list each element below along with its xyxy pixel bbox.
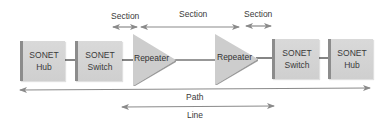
sonet-hub-right: SONET Hub — [328, 39, 373, 79]
repeater-right-label: Repeater — [217, 52, 252, 62]
switch-right-line2: Switch — [284, 59, 309, 71]
switch-right-line1: SONET — [282, 47, 311, 59]
sonet-hub-left: SONET Hub — [20, 41, 65, 81]
line-arrow — [122, 106, 274, 107]
path-label: Path — [186, 92, 204, 102]
section-middle-label: Section — [179, 9, 207, 19]
section-right-label: Section — [244, 9, 272, 19]
switch-left-line1: SONET — [85, 49, 114, 61]
path-arrow — [20, 88, 370, 90]
hub-right-line2: Hub — [344, 59, 360, 71]
sonet-switch-left: SONET Switch — [75, 41, 122, 81]
repeater-left-label: Repeater — [134, 53, 169, 63]
sonet-switch-right: SONET Switch — [272, 39, 319, 79]
hub-right-line1: SONET — [337, 47, 366, 59]
hub-left-line1: SONET — [29, 49, 58, 61]
sonet-diagram: SONET Hub SONET Switch SONET Switch SONE… — [0, 0, 388, 123]
line-label: Line — [187, 110, 203, 120]
hub-left-line2: Hub — [36, 61, 52, 73]
switch-left-line2: Switch — [87, 61, 112, 73]
section-left-label: Section — [111, 11, 139, 21]
